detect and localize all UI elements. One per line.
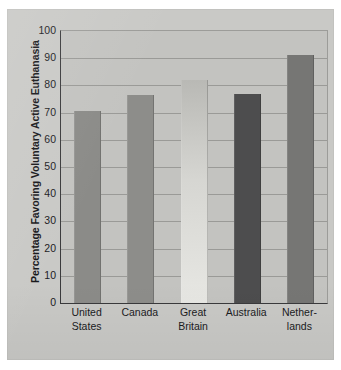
bar-slot: [221, 31, 274, 303]
y-tick-label: 70: [29, 106, 56, 118]
y-tick-label: 50: [29, 160, 56, 172]
bar-slot: [114, 31, 167, 303]
y-tick-label: 40: [29, 187, 56, 199]
y-tick-label: 0: [29, 296, 56, 308]
chart-panel: Percentage Favoring Voluntary Active Eut…: [7, 9, 334, 360]
y-tick-label: 20: [29, 242, 56, 254]
x-tick-label-line: United: [60, 306, 113, 320]
plot-area: [60, 30, 328, 304]
x-tick-label-line: Britain: [166, 320, 219, 334]
x-tick-label: Canada: [113, 306, 166, 333]
x-tick-label-line: Australia: [220, 306, 273, 320]
bar-slot: [61, 31, 114, 303]
x-tick-label-line: States: [60, 320, 113, 334]
x-tick-label: GreatBritain: [166, 306, 219, 333]
x-tick-label-line: Canada: [113, 306, 166, 320]
x-tick-label: UnitedStates: [60, 306, 113, 333]
chart-figure: Percentage Favoring Voluntary Active Eut…: [0, 0, 341, 370]
y-axis-tick-labels: 0102030405060708090100: [29, 30, 56, 302]
bar[interactable]: [127, 95, 154, 303]
y-tick-label: 10: [29, 269, 56, 281]
bar[interactable]: [181, 80, 208, 303]
bar[interactable]: [234, 94, 261, 303]
bar-slot: [274, 31, 327, 303]
x-tick-label-line: [113, 320, 166, 334]
bar[interactable]: [287, 55, 314, 303]
x-tick-label-line: Nether-: [273, 306, 326, 320]
y-tick-label: 30: [29, 214, 56, 226]
x-axis-tick-labels: UnitedStatesCanada GreatBritainAustralia…: [60, 306, 326, 333]
y-tick-label: 100: [29, 24, 56, 36]
y-tick-label: 80: [29, 78, 56, 90]
y-tick-label: 60: [29, 133, 56, 145]
x-tick-label-line: Great: [166, 306, 219, 320]
x-tick-label-line: [220, 320, 273, 334]
bar-series: [61, 31, 327, 303]
x-tick-label: Australia: [220, 306, 273, 333]
x-tick-label-line: lands: [273, 320, 326, 334]
x-tick-label: Nether-lands: [273, 306, 326, 333]
bar[interactable]: [74, 111, 101, 303]
y-tick-label: 90: [29, 51, 56, 63]
bar-slot: [167, 31, 220, 303]
